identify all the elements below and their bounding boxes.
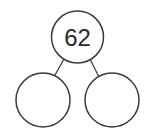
whole-value: 62 <box>64 24 91 51</box>
connector-left <box>55 59 64 75</box>
part-circle-right <box>85 73 139 127</box>
connector-right <box>90 59 99 77</box>
number-bond-diagram: 62 <box>0 0 146 132</box>
part-circle-left <box>16 73 70 127</box>
